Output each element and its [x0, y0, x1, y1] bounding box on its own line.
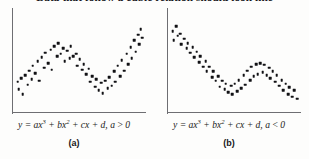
data-point: [250, 65, 253, 68]
equation-b: y = ax3 + bx2 + cx + d, a < 0: [157, 118, 301, 130]
data-point: [40, 56, 43, 59]
data-point: [30, 78, 33, 81]
data-point: [125, 52, 128, 55]
data-point: [59, 52, 62, 55]
figure-cubic-relation-scatterplots: Data that follow a cubic relation should…: [0, 0, 309, 159]
data-point: [119, 75, 122, 78]
data-point: [70, 45, 73, 48]
data-point: [246, 69, 249, 72]
data-point: [95, 78, 98, 81]
data-point: [173, 39, 176, 42]
data-point: [202, 65, 205, 68]
data-point: [37, 60, 40, 63]
data-point: [53, 45, 56, 48]
sublabel-a: (a): [2, 138, 146, 148]
equation-a-mid-2: + cx + d, a: [70, 119, 118, 130]
data-point: [261, 71, 264, 74]
data-point: [43, 66, 46, 69]
data-point: [24, 74, 27, 77]
data-point: [101, 92, 104, 95]
data-point: [82, 63, 85, 66]
scatter-plot-b: [167, 8, 300, 114]
data-point: [211, 76, 214, 79]
equation-b-mid-2: + cx + d, a: [225, 119, 273, 130]
equation-b-suffix: 0: [278, 119, 285, 130]
data-point: [110, 84, 113, 87]
data-point: [269, 77, 272, 80]
data-point: [284, 82, 287, 85]
data-point: [94, 85, 97, 88]
data-point: [114, 81, 117, 84]
data-point: [272, 70, 275, 73]
data-point: [278, 84, 281, 87]
data-point: [57, 42, 60, 45]
data-point: [198, 61, 201, 64]
data-point: [212, 70, 215, 73]
data-point: [195, 50, 198, 53]
data-point: [31, 65, 34, 68]
data-point: [139, 28, 142, 31]
data-point: [287, 93, 290, 96]
data-point: [206, 70, 209, 73]
data-point: [231, 93, 234, 96]
data-point: [230, 84, 233, 87]
data-point: [106, 87, 109, 90]
data-point: [44, 51, 47, 54]
data-point: [117, 65, 120, 68]
data-point: [291, 96, 294, 99]
data-point: [100, 81, 103, 84]
figure-heading: Data that follow a cubic relation should…: [0, 0, 309, 3]
data-point: [104, 80, 107, 83]
data-point: [34, 72, 37, 75]
data-point: [68, 57, 71, 60]
data-point: [171, 30, 174, 33]
data-point: [263, 64, 266, 67]
data-point: [180, 43, 183, 46]
data-point: [242, 74, 245, 77]
data-point: [141, 36, 144, 39]
data-point: [192, 46, 195, 49]
data-point: [38, 80, 41, 83]
data-point: [183, 37, 186, 40]
equation-b-prefix: y = ax: [173, 119, 198, 130]
data-point: [244, 83, 247, 86]
data-point: [255, 63, 258, 66]
data-point: [204, 60, 207, 63]
equation-b-mid-1: + bx: [201, 119, 221, 130]
data-point: [225, 82, 228, 85]
data-point: [193, 56, 196, 59]
data-point: [47, 62, 50, 65]
data-point: [282, 89, 285, 92]
data-point: [131, 57, 134, 60]
data-point: [217, 75, 220, 78]
data-point: [66, 49, 69, 52]
data-point: [85, 73, 88, 76]
data-point: [16, 81, 19, 84]
equation-a-mid-1: + bx: [46, 119, 66, 130]
data-point: [199, 55, 202, 58]
data-point: [237, 79, 240, 82]
data-point: [78, 58, 81, 61]
data-point: [236, 90, 239, 93]
data-point: [249, 79, 252, 82]
data-point: [280, 79, 283, 82]
data-point: [20, 77, 23, 80]
data-point: [137, 34, 140, 37]
data-point: [63, 60, 66, 63]
equation-a-prefix: y = ax: [18, 119, 43, 130]
data-point: [227, 91, 230, 94]
data-point: [21, 93, 24, 96]
data-point: [259, 62, 262, 65]
sublabel-b: (b): [157, 138, 301, 148]
data-point: [51, 68, 54, 71]
data-point: [233, 82, 236, 85]
scatter-plot-a: [12, 8, 145, 114]
equation-a: y = ax3 + bx2 + cx + d, a > 0: [2, 118, 146, 130]
data-point: [91, 75, 94, 78]
data-point: [113, 70, 116, 73]
data-point: [256, 73, 259, 76]
data-point: [56, 55, 59, 58]
data-point: [288, 86, 291, 89]
data-point: [62, 47, 65, 50]
data-point: [120, 59, 123, 62]
